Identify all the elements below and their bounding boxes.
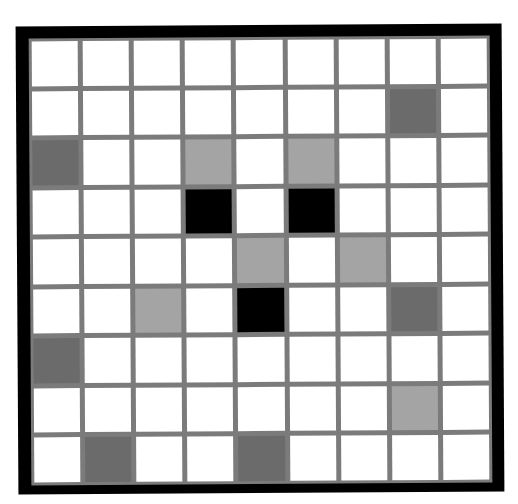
grid-cell[interactable] <box>442 336 488 381</box>
grid-cell[interactable] <box>238 387 284 432</box>
grid-cell[interactable] <box>136 338 182 383</box>
grid-cell[interactable] <box>441 39 487 84</box>
grid-cell[interactable] <box>186 139 232 184</box>
grid-cell[interactable] <box>339 138 385 183</box>
grid-cell[interactable] <box>392 435 438 480</box>
board-frame <box>16 24 505 495</box>
puzzle-stage <box>0 0 518 504</box>
grid-cell[interactable] <box>135 288 181 333</box>
grid-cell[interactable] <box>390 88 436 133</box>
grid-cell[interactable] <box>84 239 130 284</box>
grid-cell[interactable] <box>237 189 283 234</box>
grid-cell[interactable] <box>83 41 129 86</box>
grid-cell[interactable] <box>442 237 488 282</box>
grid-cell[interactable] <box>390 138 436 183</box>
grid-cell[interactable] <box>84 289 130 334</box>
grid-cell[interactable] <box>287 40 333 85</box>
grid-cell[interactable] <box>34 388 80 433</box>
grid-cell[interactable] <box>289 287 335 332</box>
grid-cell[interactable] <box>288 238 334 283</box>
grid-cell[interactable] <box>185 40 231 85</box>
puzzle-grid <box>29 36 493 486</box>
grid-cell[interactable] <box>185 90 231 135</box>
grid-cell[interactable] <box>339 188 385 233</box>
grid-cell[interactable] <box>33 289 79 334</box>
grid-cell[interactable] <box>390 188 436 233</box>
grid-cell[interactable] <box>85 388 131 433</box>
grid-cell[interactable] <box>341 436 387 481</box>
grid-cell[interactable] <box>441 138 487 183</box>
grid-cell[interactable] <box>32 140 78 185</box>
grid-cell[interactable] <box>34 438 80 483</box>
grid-cell[interactable] <box>288 139 334 184</box>
grid-cell[interactable] <box>443 435 489 480</box>
grid-cell[interactable] <box>441 187 487 232</box>
grid-cell[interactable] <box>187 337 233 382</box>
grid-cell[interactable] <box>391 336 437 381</box>
grid-cell[interactable] <box>136 437 182 482</box>
grid-cell[interactable] <box>391 287 437 332</box>
grid-cell[interactable] <box>392 386 438 431</box>
grid-cell[interactable] <box>443 385 489 430</box>
grid-cell[interactable] <box>33 338 79 383</box>
grid-cell[interactable] <box>289 337 335 382</box>
grid-cell[interactable] <box>186 238 232 283</box>
grid-cell[interactable] <box>85 338 131 383</box>
grid-cell[interactable] <box>33 239 79 284</box>
grid-cell[interactable] <box>237 238 283 283</box>
grid-cell[interactable] <box>134 40 180 85</box>
grid-cell[interactable] <box>186 189 232 234</box>
grid-cell[interactable] <box>84 189 130 234</box>
grid-cell[interactable] <box>187 288 233 333</box>
grid-cell[interactable] <box>239 436 285 481</box>
grid-cell[interactable] <box>32 41 78 86</box>
grid-cell[interactable] <box>187 437 233 482</box>
grid-cell[interactable] <box>134 90 180 135</box>
grid-cell[interactable] <box>83 140 129 185</box>
grid-cell[interactable] <box>83 90 129 135</box>
grid-cell[interactable] <box>441 88 487 133</box>
grid-cell[interactable] <box>340 287 386 332</box>
grid-cell[interactable] <box>238 337 284 382</box>
grid-cell[interactable] <box>289 386 335 431</box>
grid-cell[interactable] <box>237 139 283 184</box>
grid-cell[interactable] <box>135 189 181 234</box>
grid-cell[interactable] <box>135 239 181 284</box>
grid-cell[interactable] <box>340 386 386 431</box>
grid-cell[interactable] <box>442 286 488 331</box>
grid-cell[interactable] <box>389 39 435 84</box>
grid-cell[interactable] <box>340 337 386 382</box>
grid-cell[interactable] <box>238 288 284 333</box>
grid-cell[interactable] <box>134 140 180 185</box>
grid-cell[interactable] <box>32 91 78 136</box>
grid-cell[interactable] <box>236 89 282 134</box>
grid-cell[interactable] <box>340 237 386 282</box>
grid-cell[interactable] <box>85 437 131 482</box>
grid-cell[interactable] <box>236 40 282 85</box>
grid-cell[interactable] <box>288 188 334 233</box>
grid-cell[interactable] <box>33 190 79 235</box>
grid-cell[interactable] <box>391 237 437 282</box>
grid-cell[interactable] <box>290 436 336 481</box>
grid-cell[interactable] <box>338 39 384 84</box>
grid-cell[interactable] <box>288 89 334 134</box>
grid-cell[interactable] <box>339 89 385 134</box>
grid-cell[interactable] <box>136 387 182 432</box>
grid-cell[interactable] <box>187 387 233 432</box>
